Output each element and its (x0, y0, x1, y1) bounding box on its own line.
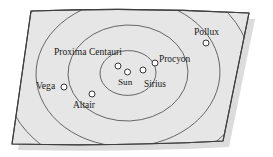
star-map-canvas (0, 0, 273, 157)
star-label-sirius: Sirius (144, 80, 166, 89)
star-dot-proximacentauri[interactable] (115, 63, 121, 69)
star-label-altair: Altair (73, 101, 95, 110)
star-dot-altair[interactable] (89, 91, 95, 97)
star-label-sun: Sun (118, 78, 132, 87)
star-label-proximacentauri: Proxima Centauri (54, 47, 122, 57)
star-dot-pollux[interactable] (203, 40, 209, 46)
star-dot-vega[interactable] (61, 84, 67, 90)
star-map-figure: SunProxima CentauriSiriusProcyonPolluxVe… (0, 0, 273, 157)
star-dot-sirius[interactable] (140, 67, 146, 73)
star-dot-procyon[interactable] (152, 60, 158, 66)
star-label-pollux: Pollux (194, 27, 219, 37)
star-label-procyon: Procyon (159, 55, 190, 64)
star-label-vega: Vega (36, 81, 55, 91)
star-dot-sun[interactable] (125, 69, 131, 75)
